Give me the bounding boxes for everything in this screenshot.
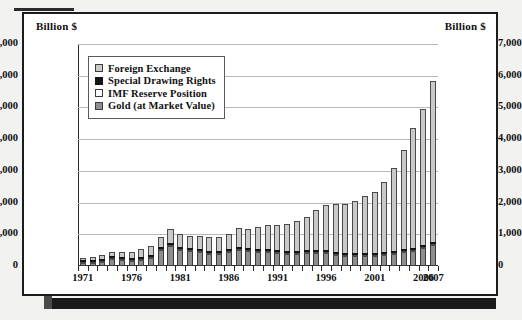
bar-segment-fx (284, 224, 290, 251)
y-axis-tick-label-right: 0 (498, 259, 522, 270)
bar-segment-gold (362, 257, 368, 266)
y-axis-tick-label-right: 4,000 (498, 132, 522, 143)
bar-segment-gold (197, 253, 203, 266)
bar-segment-fx (138, 249, 144, 257)
chart-legend: Foreign ExchangeSpecial Drawing RightsIM… (88, 56, 225, 119)
y-axis-tick-label-left: 5,000 (0, 100, 18, 111)
bar-1992 (284, 44, 290, 266)
bar-segment-fx (304, 217, 310, 250)
bar-segment-fx (420, 109, 426, 244)
x-tick (156, 266, 157, 271)
x-tick (302, 266, 303, 271)
x-tick (175, 266, 176, 271)
x-tick (204, 266, 205, 271)
y-axis-tick-label-left: 6,000 (0, 69, 18, 80)
bar-segment-gold (313, 254, 319, 266)
x-axis-ticks (78, 266, 438, 271)
legend-label: Special Drawing Rights (108, 75, 216, 86)
x-axis-tick-label: 1986 (218, 272, 239, 283)
bar-segment-fx (236, 228, 242, 247)
bar-segment-fx (391, 168, 397, 250)
bar-segment-fx (226, 234, 232, 249)
bar-segment-gold (323, 254, 329, 266)
bar-segment-gold (352, 257, 358, 267)
bar-2001 (372, 44, 378, 266)
bar-1971 (80, 44, 86, 266)
legend-item-imf: IMF Reserve Position (95, 88, 216, 99)
bar-segment-fx (401, 150, 407, 249)
bar-segment-gold (430, 246, 436, 266)
y-axis-tick-label-right: 3,000 (498, 164, 522, 175)
bar-segment-gold (177, 251, 183, 266)
bar-segment-gold (236, 251, 242, 266)
bar-segment-gold (381, 256, 387, 266)
bar-segment-gold (401, 253, 407, 266)
x-tick (331, 266, 332, 271)
bar-segment-gold (245, 252, 251, 266)
scan-artifact-bottom (50, 298, 496, 309)
bar-segment-fx (245, 229, 251, 249)
bar-segment-fx (410, 128, 416, 248)
x-tick (282, 266, 283, 271)
x-tick (399, 266, 400, 271)
legend-swatch-icon-gold (95, 102, 103, 110)
y-axis-tick-label-left: 7,000 (0, 37, 18, 48)
x-tick (419, 266, 420, 271)
bar-segment-gold (148, 259, 154, 266)
bar-1987 (236, 44, 242, 266)
y-axis-tick-label-left: 4,000 (0, 132, 18, 143)
x-tick (312, 266, 313, 271)
bar-segment-gold (342, 257, 348, 267)
x-tick (127, 266, 128, 271)
x-tick (438, 266, 439, 271)
x-tick (253, 266, 254, 271)
x-tick (166, 266, 167, 271)
y-axis-tick-label-right: 6,000 (498, 69, 522, 80)
bar-segment-fx (197, 236, 203, 249)
x-tick (136, 266, 137, 271)
bar-segment-gold (372, 257, 378, 266)
bar-segment-gold (158, 251, 164, 266)
bar-segment-gold (216, 255, 222, 266)
x-tick (146, 266, 147, 271)
bar-segment-gold (206, 255, 212, 266)
bar-segment-fx (216, 237, 222, 250)
bar-segment-fx (333, 204, 339, 252)
bar-1986 (226, 44, 232, 266)
bar-1988 (245, 44, 251, 266)
x-tick (107, 266, 108, 271)
bar-2005 (410, 44, 416, 266)
bar-segment-fx (342, 204, 348, 253)
bar-segment-fx (323, 205, 329, 250)
bar-segment-fx (187, 236, 193, 248)
x-tick (195, 266, 196, 271)
x-tick (370, 266, 371, 271)
bar-1996 (323, 44, 329, 266)
y-axis-tick-label-left: 3,000 (0, 164, 18, 175)
bar-segment-gold (420, 249, 426, 266)
bar-1994 (304, 44, 310, 266)
bar-segment-fx (362, 196, 368, 253)
y-axis-tick-label-left: 2,000 (0, 196, 18, 207)
bar-1999 (352, 44, 358, 266)
x-tick (117, 266, 118, 271)
x-axis-tick-label: 2001 (364, 272, 385, 283)
y-axis-tick-label-left: 0 (0, 259, 18, 270)
bar-segment-fx (430, 81, 436, 243)
legend-item-fx: Foreign Exchange (95, 63, 216, 74)
bar-2002 (381, 44, 387, 266)
x-tick (341, 266, 342, 271)
legend-swatch-icon-sdr (95, 77, 103, 85)
x-tick (88, 266, 89, 271)
legend-item-sdr: Special Drawing Rights (95, 75, 216, 86)
x-axis-tick-label: 1976 (121, 272, 142, 283)
x-tick (360, 266, 361, 271)
bar-2000 (362, 44, 368, 266)
bar-segment-fx (177, 234, 183, 247)
x-axis-tick-label: 1981 (170, 272, 191, 283)
bar-1990 (265, 44, 271, 266)
bar-segment-fx (206, 237, 212, 250)
bar-segment-gold (333, 256, 339, 266)
bar-segment-gold (167, 247, 173, 266)
chart-figure: Billion $ Billion $ 01,0002,0003,0004,00… (22, 12, 498, 296)
